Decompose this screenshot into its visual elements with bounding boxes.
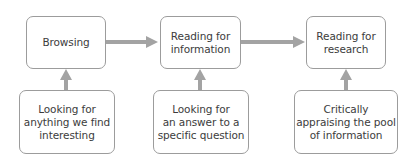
box-looking-for-answer-label: Looking for an answer to a specific ques…	[158, 103, 245, 142]
box-reading-for-information-label: Reading for information	[171, 30, 231, 56]
box-browsing: Browsing	[26, 16, 106, 69]
arrow-answer-to-information	[194, 69, 206, 90]
box-looking-for-answer: Looking for an answer to a specific ques…	[153, 90, 249, 154]
box-reading-for-information: Reading for information	[160, 16, 241, 69]
arrow-browsing-to-information	[106, 36, 158, 48]
arrow-interesting-to-browsing	[60, 69, 72, 90]
reading-process-diagram: Browsing Reading for information Reading…	[0, 0, 412, 166]
box-critically-appraising: Critically appraising the pool of inform…	[294, 90, 398, 154]
box-looking-for-interesting-label: Looking for anything we find interesting	[24, 103, 110, 142]
box-reading-for-research: Reading for research	[306, 16, 386, 69]
arrow-appraising-to-research	[340, 69, 352, 90]
box-browsing-label: Browsing	[42, 36, 89, 49]
box-looking-for-interesting: Looking for anything we find interesting	[19, 90, 115, 154]
box-reading-for-research-label: Reading for research	[316, 30, 375, 56]
arrow-information-to-research	[241, 36, 305, 48]
box-critically-appraising-label: Critically appraising the pool of inform…	[296, 103, 396, 142]
